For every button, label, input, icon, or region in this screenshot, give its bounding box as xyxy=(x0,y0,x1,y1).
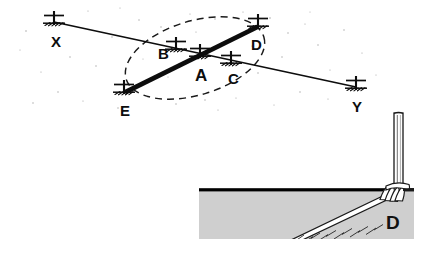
marker-x xyxy=(43,11,65,26)
label-b: B xyxy=(158,45,169,62)
label-c: C xyxy=(228,70,239,87)
label-y: Y xyxy=(352,98,362,115)
ground-surface-line xyxy=(199,188,414,191)
label-d: D xyxy=(251,36,262,53)
lashing-detail-group: D xyxy=(199,112,414,244)
label-x: X xyxy=(51,33,61,50)
loadline-e-to-d xyxy=(124,25,260,95)
label-a: A xyxy=(195,66,207,85)
marker-y xyxy=(345,76,367,91)
label-inset-d: D xyxy=(386,212,400,233)
plan-view-group: X B A C D E Y xyxy=(19,2,376,119)
marker-d xyxy=(247,14,269,29)
anchor-layout-figure: X B A C D E Y xyxy=(0,0,433,255)
label-e: E xyxy=(120,102,130,119)
